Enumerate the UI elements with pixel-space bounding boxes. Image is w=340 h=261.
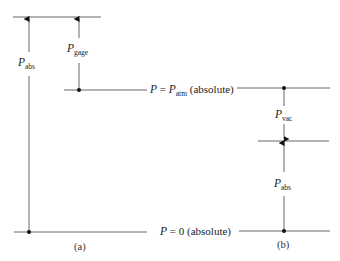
caption-panel-b: (b) — [277, 240, 289, 251]
dot-pa-zero — [27, 230, 31, 234]
label-pb-vac: Pvac — [275, 109, 292, 123]
pressure-diagram: Pabs Pgage Pvac Pabs P = Patm (absolute)… — [0, 0, 340, 261]
dot-pb-zero — [282, 229, 286, 233]
diagram-lines — [0, 0, 340, 261]
label-pb-abs: Pabs — [274, 178, 291, 192]
dot-pa-atm — [77, 88, 81, 92]
caption-panel-a: (a) — [74, 242, 86, 253]
label-level-zero: P = 0 (absolute) — [160, 226, 231, 238]
label-level-atm: P = Patm (absolute) — [150, 84, 234, 98]
dot-pb-atm — [282, 86, 286, 90]
label-pa-gage: Pgage — [67, 43, 88, 57]
label-pa-abs: Pabs — [18, 57, 35, 71]
